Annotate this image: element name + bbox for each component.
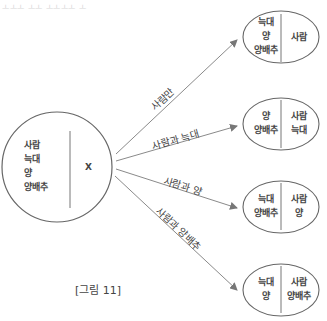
target-2-right: 사람 늑대 — [284, 109, 314, 137]
source-circle — [2, 112, 112, 222]
item: 늑대 — [252, 192, 280, 206]
target-4-right: 사람 양배추 — [284, 275, 314, 303]
figure-caption: [그림 11] — [75, 281, 121, 297]
target-1-left: 늑대 양 양배추 — [252, 15, 280, 57]
item-wolf: 늑대 — [24, 152, 48, 166]
item: 사람 — [284, 192, 314, 206]
item: 늑대 — [284, 123, 314, 137]
item: 양 — [252, 29, 280, 43]
source-left-items: 사람 늑대 양 양배추 — [24, 138, 48, 194]
item: 사람 — [284, 275, 314, 289]
item: 늑대 — [252, 15, 280, 29]
target-4-left: 늑대 양 — [252, 275, 280, 303]
item-person: 사람 — [24, 138, 48, 152]
item: 사람 — [284, 109, 314, 123]
item: 양배추 — [252, 123, 280, 137]
item-sheep: 양 — [24, 166, 48, 180]
target-1-right: 사람 — [284, 30, 314, 44]
item: 양 — [252, 289, 280, 303]
item: 양배추 — [252, 43, 280, 57]
item: 양 — [284, 206, 314, 220]
item-empty-x: X — [85, 160, 92, 174]
target-2-left: 양 양배추 — [252, 109, 280, 137]
item: 양배추 — [284, 289, 314, 303]
target-3-right: 사람 양 — [284, 192, 314, 220]
item: 양배추 — [252, 206, 280, 220]
item-cabbage: 양배추 — [24, 180, 48, 194]
item: 늑대 — [252, 275, 280, 289]
target-3-left: 늑대 양배추 — [252, 192, 280, 220]
item: 양 — [252, 109, 280, 123]
source-right-items: X — [85, 160, 92, 174]
item: 사람 — [284, 30, 314, 44]
